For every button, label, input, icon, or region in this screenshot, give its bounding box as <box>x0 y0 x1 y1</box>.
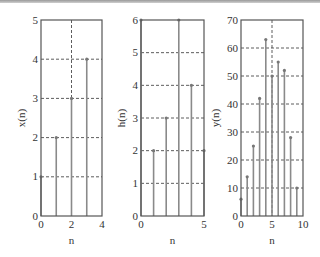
x-tick-label: 0 <box>38 218 44 230</box>
y-tick-label: 30 <box>227 126 239 138</box>
y-tick-label: 3 <box>133 112 139 124</box>
stem-plots: 012345024nx(n)012345605nh(n)010203040506… <box>0 0 320 257</box>
y-tick-label: 5 <box>33 14 39 26</box>
y-tick-label: 60 <box>227 42 239 54</box>
x-axis-label: n <box>170 234 176 246</box>
stem-marker <box>258 97 261 100</box>
stem-marker <box>70 97 73 100</box>
y-axis-label: h(n) <box>115 109 128 128</box>
y-tick-label: 1 <box>133 177 139 189</box>
y-tick-label: 6 <box>133 14 139 26</box>
y-tick-label: 70 <box>227 14 239 26</box>
y-axis-label: x(n) <box>15 109 28 128</box>
y-tick-label: 40 <box>227 98 239 110</box>
stem-marker <box>252 144 255 147</box>
y-tick-label: 50 <box>227 70 239 82</box>
chart-xn: 012345024nx(n) <box>15 14 105 247</box>
x-axis-label: n <box>69 234 75 246</box>
x-tick-label: 5 <box>269 218 275 230</box>
y-tick-label: 1 <box>33 170 39 182</box>
x-tick-label: 4 <box>99 218 105 230</box>
y-tick-label: 10 <box>227 182 239 194</box>
y-axis-label: y(n) <box>209 109 222 128</box>
stem-marker <box>283 69 286 72</box>
x-tick-label: 2 <box>69 218 75 230</box>
x-tick-label: 0 <box>138 218 144 230</box>
chart-hn: 012345605nh(n) <box>115 14 207 247</box>
stem-marker <box>246 175 249 178</box>
y-tick-label: 20 <box>227 154 239 166</box>
x-tick-label: 10 <box>298 218 310 230</box>
stem-marker <box>190 84 193 87</box>
stem-marker <box>85 58 88 61</box>
stem-marker <box>152 149 155 152</box>
x-tick-label: 0 <box>238 218 244 230</box>
y-tick-label: 4 <box>133 79 139 91</box>
x-tick-label: 5 <box>201 218 207 230</box>
stem-marker <box>295 186 298 189</box>
stem-marker <box>264 38 267 41</box>
stem-marker <box>270 74 273 77</box>
stem-marker <box>55 136 58 139</box>
chart-yn: 0102030405060700510ny(n) <box>209 14 309 247</box>
stem-marker <box>165 116 168 119</box>
x-axis-label: n <box>269 234 275 246</box>
y-tick-label: 2 <box>133 144 139 156</box>
stem-marker <box>277 60 280 63</box>
y-tick-label: 4 <box>33 53 39 65</box>
y-tick-label: 3 <box>33 92 39 104</box>
y-tick-label: 2 <box>33 131 39 143</box>
y-tick-label: 5 <box>133 46 139 58</box>
stem-marker <box>289 136 292 139</box>
